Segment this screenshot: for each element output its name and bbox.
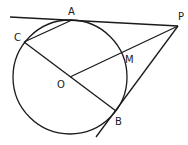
tangent-PB <box>96 26 178 137</box>
point-label-b: B <box>115 116 122 127</box>
point-label-p: P <box>178 11 184 22</box>
segment-OP <box>70 26 178 77</box>
point-label-a: A <box>68 6 75 17</box>
chord-CA <box>24 20 72 42</box>
point-label-o: O <box>57 79 65 90</box>
point-label-m: M <box>125 54 134 65</box>
geometry-diagram: APCOMB <box>0 0 188 145</box>
point-label-c: C <box>14 32 21 43</box>
